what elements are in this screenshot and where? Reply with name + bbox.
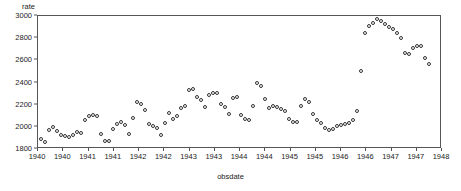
x-tick-mark [340,148,341,151]
y-tick-label: 2800 [2,33,32,42]
x-tick-label: 1948 [421,152,461,161]
x-tick-mark [62,148,63,151]
x-tick-mark [163,148,164,151]
x-tick-mark [88,148,89,151]
x-tick-mark [138,148,139,151]
x-tick-mark [264,148,265,151]
x-tick-mark [214,148,215,151]
y-tick-label: 2000 [2,121,32,130]
x-tick-mark [113,148,114,151]
y-tick-mark [34,15,37,16]
x-tick-mark [416,148,417,151]
x-tick-mark [391,148,392,151]
chart-root: rate 1800200022002400260028003000 194019… [0,0,461,191]
y-tick-mark [34,81,37,82]
x-tick-mark [37,148,38,151]
x-axis-title: obsdate [0,172,461,181]
x-tick-mark [441,148,442,151]
y-tick-label: 2600 [2,55,32,64]
y-tick-label: 2400 [2,77,32,86]
x-tick-mark [290,148,291,151]
y-tick-label: 3000 [2,11,32,20]
plot-area [37,15,441,148]
y-tick-mark [34,103,37,104]
x-tick-mark [189,148,190,151]
x-tick-mark [239,148,240,151]
y-tick-label: 2200 [2,99,32,108]
y-tick-mark [34,125,37,126]
y-tick-mark [34,59,37,60]
x-tick-mark [315,148,316,151]
y-tick-mark [34,37,37,38]
x-tick-mark [365,148,366,151]
